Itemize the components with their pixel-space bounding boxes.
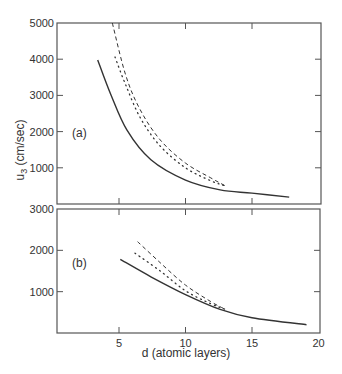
x-tick-label: 5 <box>116 337 122 349</box>
panel-b: 1000200030005101520 <box>30 203 325 349</box>
series-dotted-line <box>115 57 225 186</box>
x-tick-label: 15 <box>246 337 258 349</box>
chart-figure: 10002000300040005000 1000200030005101520… <box>0 0 342 374</box>
panel-frame <box>57 209 320 333</box>
x-tick-label: 20 <box>312 337 324 349</box>
panel-b-label: (b) <box>72 256 87 270</box>
series-dashed-line <box>112 23 225 186</box>
series-solid-line <box>120 259 306 324</box>
panel-a: 10002000300040005000 <box>30 17 321 204</box>
y-tick-label: 2000 <box>30 244 54 256</box>
y-axis-label: u3 (cm/sec) <box>13 119 29 180</box>
y-axis-label-main: u <box>13 174 27 181</box>
series-solid-line <box>98 60 290 197</box>
series-dashed-line <box>138 242 226 310</box>
y-tick-label: 3000 <box>30 203 54 215</box>
y-tick-label: 1000 <box>30 162 54 174</box>
y-tick-label: 4000 <box>30 53 54 65</box>
x-axis-label: d (atomic layers) <box>142 346 231 360</box>
panel-a-label: (a) <box>72 126 87 140</box>
panel-frame <box>57 23 321 204</box>
y-tick-label: 2000 <box>30 126 54 138</box>
y-tick-label: 5000 <box>30 17 54 29</box>
y-axis-label-rest: (cm/sec) <box>13 119 27 168</box>
y-tick-label: 1000 <box>30 286 54 298</box>
y-tick-label: 3000 <box>30 89 54 101</box>
